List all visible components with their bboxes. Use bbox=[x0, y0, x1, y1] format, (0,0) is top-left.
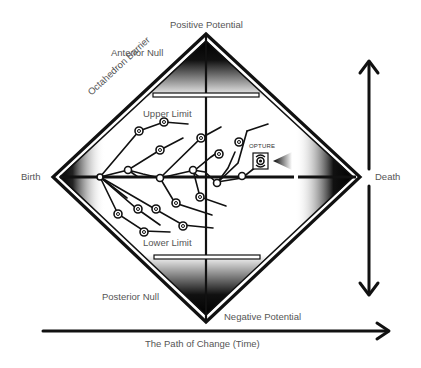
node bbox=[97, 174, 103, 180]
positive-potential-label: Positive Potential bbox=[170, 20, 243, 30]
node bbox=[114, 210, 122, 218]
node bbox=[179, 222, 187, 230]
node bbox=[160, 118, 168, 126]
node bbox=[196, 193, 204, 201]
node bbox=[156, 146, 164, 154]
opture-pointer-icon bbox=[273, 152, 292, 170]
node bbox=[190, 167, 197, 174]
time-axis-label: The Path of Change (Time) bbox=[145, 339, 260, 349]
negative-potential-label: Negative Potential bbox=[224, 312, 301, 322]
time-arrow bbox=[43, 323, 389, 339]
node bbox=[239, 173, 246, 180]
opture-label: OPTURE bbox=[249, 143, 275, 149]
birth-label: Birth bbox=[21, 172, 41, 182]
lower-limit-label: Lower Limit bbox=[143, 238, 192, 248]
node bbox=[214, 180, 221, 187]
upper-limit-label: Upper Limit bbox=[143, 109, 192, 119]
posterior-null-label: Posterior Null bbox=[102, 292, 159, 302]
node bbox=[125, 167, 132, 174]
lower-limit-bar bbox=[154, 255, 260, 259]
node bbox=[235, 138, 243, 146]
node bbox=[135, 127, 143, 135]
node bbox=[157, 175, 164, 182]
death-label: Death bbox=[375, 172, 400, 182]
upper-limit-bar bbox=[153, 93, 259, 97]
node bbox=[172, 199, 180, 207]
octahedron-diagram bbox=[0, 0, 421, 368]
node bbox=[215, 150, 223, 158]
opture-marker bbox=[253, 153, 268, 169]
node bbox=[134, 205, 142, 213]
node bbox=[197, 134, 205, 142]
node bbox=[152, 205, 160, 213]
node bbox=[140, 228, 148, 236]
